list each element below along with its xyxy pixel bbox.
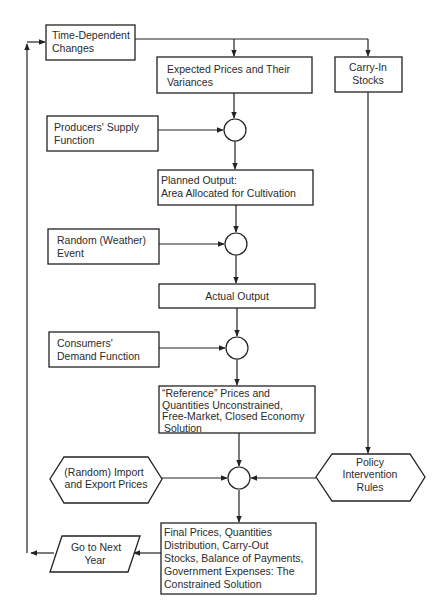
node-planned-output: Planned Output:Area Allocated for Cultiv… [158, 170, 313, 205]
junction-circle-2 [225, 233, 247, 255]
node-import-export-prices: (Random) Importand Export Prices [50, 457, 162, 503]
node-random-weather: Random (Weather)Event [48, 229, 159, 264]
node-policy-intervention-rules: PolicyInterventionRules [316, 454, 425, 501]
node-go-to-next-year: Go to NextYear [50, 536, 140, 572]
node-time-dependent: Time-DependentChanges [46, 25, 135, 60]
junction-circle-4 [228, 467, 250, 489]
svg-text:(Random) Importand Export Pric: (Random) Importand Export Prices [64, 466, 147, 490]
node-final-prices: Final Prices, QuantitiesDistribution, Ca… [161, 523, 316, 594]
junction-circle-3 [226, 337, 248, 359]
junction-circle-1 [224, 119, 246, 141]
svg-text:Carry-InStocks: Carry-InStocks [349, 61, 387, 86]
node-producers-supply: Producers' SupplyFunction [47, 116, 158, 151]
flowchart-diagram: Time-DependentChanges Expected Prices an… [0, 0, 445, 616]
node-expected-prices: Expected Prices and TheirVariances [157, 57, 312, 93]
node-consumers-demand: Consumers'Demand Function [49, 332, 159, 367]
node-carry-in-stocks: Carry-InStocks [335, 57, 402, 92]
node-actual-output: Actual Output [159, 284, 315, 308]
svg-text:Actual Output: Actual Output [205, 290, 269, 302]
node-reference-prices: “Reference” Prices andQuantities Unconst… [159, 386, 315, 434]
